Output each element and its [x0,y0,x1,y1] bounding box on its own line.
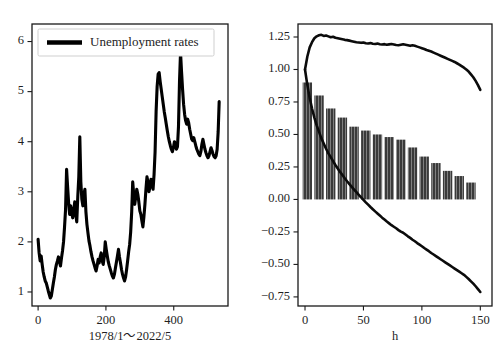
x-tick-label: 100 [412,313,431,327]
x-tick-label: 150 [470,313,489,327]
x-axis-label: h [391,329,398,343]
bar [396,140,405,200]
x-tick-label: 0 [35,313,41,327]
y-tick-label: 5 [18,83,24,97]
left-chart-panel: 12345602004001978/1～2022/5Unemployment r… [0,0,252,356]
bar [361,131,370,200]
legend-label: Unemployment rates [90,34,199,49]
y-tick-label: −0.25 [261,224,290,238]
bar [337,118,346,200]
y-tick-label: 1 [18,284,24,298]
bar [407,147,416,199]
bar [372,134,381,199]
figure-container: 12345602004001978/1～2022/5Unemployment r… [0,0,503,356]
y-tick-label: 6 [18,33,24,47]
bar [454,176,463,199]
y-tick-label: 0.25 [268,159,290,173]
y-tick-label: −0.50 [261,256,290,270]
left-chart-svg: 12345602004001978/1～2022/5Unemployment r… [0,0,251,356]
y-tick-label: −0.75 [261,289,290,303]
bar [314,95,323,199]
x-tick-label: 0 [301,313,307,327]
y-tick-label: 1.00 [268,61,290,75]
series-line-unemployment-rates [38,53,219,298]
bar [466,183,475,200]
y-tick-label: 1.25 [268,29,290,43]
x-axis-label: 1978/1～2022/5 [89,329,171,343]
y-tick-label: 4 [18,134,25,148]
x-tick-label: 400 [164,313,183,327]
y-tick-label: 2 [18,234,24,248]
bar [419,157,428,200]
right-chart-panel: 1.251.000.750.500.250.00−0.25−0.50−0.750… [252,0,503,356]
bar [431,163,440,199]
bar [442,171,451,200]
bar [384,137,393,199]
y-tick-label: 3 [18,184,24,198]
y-tick-label: 0.00 [268,191,290,205]
x-tick-label: 200 [97,313,116,327]
series-line-upper-bound [305,35,480,90]
y-tick-label: 0.75 [268,94,290,108]
x-tick-label: 50 [357,313,370,327]
right-chart-svg: 1.251.000.750.500.250.00−0.25−0.50−0.750… [252,0,503,356]
y-tick-label: 0.50 [268,126,290,140]
